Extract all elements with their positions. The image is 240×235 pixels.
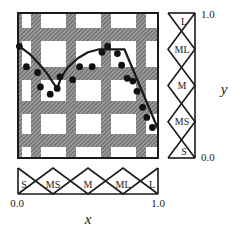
y-axis-max-label: 1.0 [201, 8, 215, 20]
x-mf-label-L: L [149, 179, 155, 190]
y-mf-label-ML: ML [175, 44, 190, 55]
x-mf-label-S: S [21, 179, 27, 190]
data-point [89, 63, 96, 70]
data-point [134, 88, 141, 95]
x-axis-title: x [84, 211, 92, 227]
x-membership-strip: S MS M ML L [18, 168, 158, 194]
data-point [23, 63, 30, 70]
data-point [139, 104, 146, 111]
y-mf-label-M: M [178, 80, 187, 91]
y-axis-min-label: 0.0 [201, 151, 215, 163]
data-point [69, 76, 76, 83]
data-point [129, 78, 136, 85]
x-mf-label-MS: MS [46, 179, 60, 190]
y-mf-label-MS: MS [175, 116, 189, 127]
x-mf-label-M: M [84, 179, 93, 190]
data-point [54, 85, 61, 92]
data-point [76, 63, 83, 70]
data-point [143, 114, 150, 121]
y-mf-label-L: L [181, 16, 187, 27]
y-membership-strip: L ML M MS S [168, 13, 195, 158]
y-mf-label-S: S [181, 146, 187, 157]
x-axis-max-label: 1.0 [151, 197, 165, 209]
y-axis-title: y [219, 81, 228, 97]
data-point [149, 124, 156, 131]
data-point [114, 50, 121, 57]
data-point [34, 69, 41, 76]
data-point [37, 84, 44, 91]
x-axis-min-label: 0.0 [10, 197, 24, 209]
data-point [118, 62, 125, 69]
data-point [57, 73, 64, 80]
data-point [104, 43, 111, 50]
x-mf-label-ML: ML [116, 179, 131, 190]
fuzzy-diagram: L ML M MS S S MS M ML L 0.0 1.0 x 1.0 0.… [0, 0, 240, 235]
data-point [16, 43, 23, 50]
data-point [99, 49, 106, 56]
data-point [47, 91, 54, 98]
